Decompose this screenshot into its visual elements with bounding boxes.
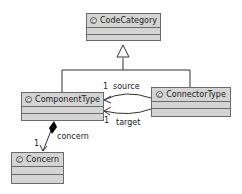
target-multiplicity: 1 — [104, 116, 109, 125]
class-name: Concern — [26, 155, 59, 164]
attributes-compartment — [22, 107, 103, 114]
attributes-compartment — [152, 102, 230, 109]
attributes-compartment — [12, 167, 63, 175]
class-icon: C — [156, 91, 163, 98]
concern-multiplicity: 1 — [34, 139, 39, 148]
class-name: CodeCategory — [100, 16, 157, 25]
class-component-type[interactable]: CComponentType — [21, 92, 104, 121]
target-role-label: target — [116, 118, 140, 127]
class-icon: C — [90, 17, 97, 24]
source-multiplicity: 1 — [103, 82, 108, 91]
concern-role-label: concern — [57, 132, 89, 141]
class-concern[interactable]: CConcern — [11, 152, 64, 184]
class-icon: C — [16, 156, 23, 163]
class-code-category[interactable]: CCodeCategory — [86, 13, 161, 41]
source-role-label: source — [113, 82, 140, 91]
class-name: ComponentType — [35, 95, 100, 104]
class-name: ConnectorType — [166, 90, 226, 99]
class-icon: C — [25, 96, 32, 103]
generalization-arrowhead — [117, 45, 129, 57]
attributes-compartment — [87, 28, 160, 35]
class-connector-type[interactable]: CConnectorType — [151, 87, 231, 117]
